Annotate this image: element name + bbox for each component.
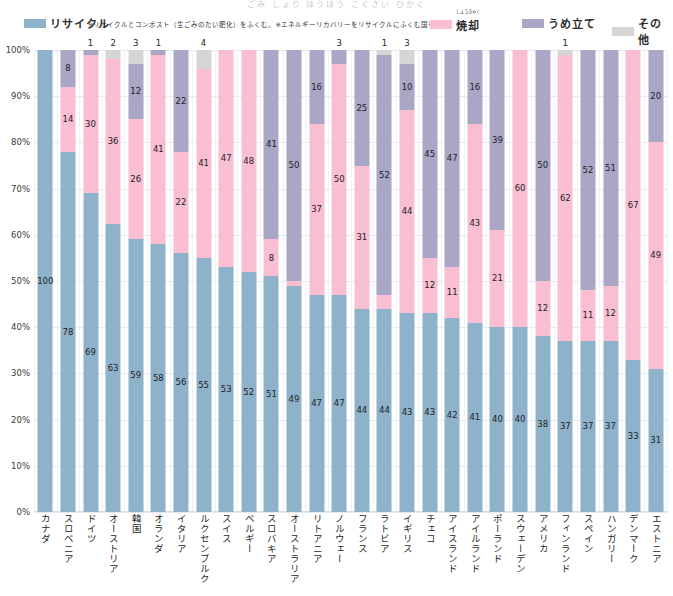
bar-segment[interactable]: 43 [422, 313, 437, 512]
bar-column[interactable]: 443521 [373, 50, 396, 512]
bar-column[interactable]: 414316 [464, 50, 487, 512]
stacked-bar[interactable]: 55414 [196, 50, 211, 512]
bar-segment[interactable]: 39 [490, 50, 505, 230]
bar-segment[interactable]: 36 [106, 59, 121, 224]
bar-segment[interactable]: 8 [264, 239, 279, 276]
bar-segment[interactable]: 58 [151, 244, 166, 512]
bar-segment[interactable]: 41 [151, 55, 166, 244]
stacked-bar[interactable]: 431245 [422, 50, 437, 512]
bar-segment[interactable]: 100 [38, 50, 53, 512]
bar-segment[interactable]: 45 [422, 50, 437, 258]
stacked-bar[interactable]: 314920 [648, 50, 663, 512]
bar-segment[interactable]: 41 [467, 323, 482, 512]
bar-segment[interactable]: 47 [332, 295, 347, 512]
bar-segment[interactable]: 59 [128, 239, 143, 512]
bar-column[interactable]: 5248 [237, 50, 260, 512]
bar-segment[interactable]: 47 [309, 295, 324, 512]
bar-segment[interactable]: 31 [354, 166, 369, 309]
bar-segment[interactable]: 3 [332, 50, 347, 64]
stacked-bar[interactable]: 5926123 [128, 50, 143, 512]
bar-column[interactable]: 421147 [441, 50, 464, 512]
stacked-bar[interactable]: 371251 [603, 50, 618, 512]
bar-segment[interactable]: 12 [535, 281, 550, 336]
stacked-bar[interactable]: 69301 [83, 50, 98, 512]
bar-segment[interactable]: 51 [264, 276, 279, 512]
bar-segment[interactable]: 50 [332, 64, 347, 295]
stacked-bar[interactable]: 49150 [287, 50, 302, 512]
bar-column[interactable]: 562222 [170, 50, 193, 512]
bar-segment[interactable]: 1 [287, 281, 302, 286]
bar-segment[interactable]: 16 [309, 50, 324, 124]
bar-segment[interactable]: 20 [648, 50, 663, 142]
bar-column[interactable]: 371152 [577, 50, 600, 512]
bar-segment[interactable]: 26 [128, 119, 143, 239]
bar-segment[interactable]: 44 [377, 309, 392, 512]
bar-segment[interactable]: 42 [445, 318, 460, 512]
bar-column[interactable]: 58411 [147, 50, 170, 512]
bar-column[interactable]: 69301 [79, 50, 102, 512]
bar-column[interactable]: 314920 [644, 50, 667, 512]
bar-segment[interactable]: 40 [513, 327, 528, 512]
stacked-bar[interactable]: 78148 [60, 50, 75, 512]
stacked-bar[interactable]: 47503 [332, 50, 347, 512]
bar-segment[interactable]: 4 [196, 50, 211, 68]
stacked-bar[interactable]: 371152 [580, 50, 595, 512]
bar-segment[interactable]: 55 [196, 258, 211, 512]
stacked-bar[interactable]: 37621 [558, 50, 573, 512]
bar-column[interactable]: 4344103 [396, 50, 419, 512]
bar-segment[interactable]: 52 [377, 55, 392, 295]
bar-segment[interactable]: 1 [151, 50, 166, 55]
bar-segment[interactable]: 49 [648, 142, 663, 368]
stacked-bar[interactable]: 100 [38, 50, 53, 512]
bar-column[interactable]: 47503 [328, 50, 351, 512]
bar-segment[interactable]: 37 [603, 341, 618, 512]
bar-segment[interactable]: 37 [558, 341, 573, 512]
bar-segment[interactable]: 67 [626, 50, 641, 360]
bar-segment[interactable]: 37 [309, 124, 324, 295]
stacked-bar[interactable]: 562222 [173, 50, 188, 512]
bar-segment[interactable]: 62 [558, 55, 573, 341]
bar-segment[interactable]: 63 [106, 224, 121, 512]
bar-segment[interactable]: 2 [106, 50, 121, 59]
bar-segment[interactable]: 60 [513, 50, 528, 327]
bar-segment[interactable]: 51 [603, 50, 618, 286]
bar-segment[interactable]: 56 [173, 253, 188, 512]
stacked-bar[interactable]: 421147 [445, 50, 460, 512]
bar-column[interactable]: 431245 [418, 50, 441, 512]
bar-segment[interactable]: 43 [400, 313, 415, 512]
bar-column[interactable]: 37621 [554, 50, 577, 512]
bar-segment[interactable]: 49 [287, 286, 302, 512]
bar-segment[interactable]: 48 [241, 50, 256, 272]
stacked-bar[interactable]: 381250 [535, 50, 550, 512]
bar-segment[interactable]: 21 [490, 230, 505, 327]
bar-column[interactable]: 402139 [486, 50, 509, 512]
bar-segment[interactable]: 40 [490, 327, 505, 512]
bar-segment[interactable]: 10 [400, 64, 415, 110]
bar-column[interactable]: 3367 [622, 50, 645, 512]
bar-segment[interactable]: 1 [377, 50, 392, 55]
bar-column[interactable]: 55414 [192, 50, 215, 512]
bar-column[interactable]: 51841 [260, 50, 283, 512]
bar-segment[interactable]: 14 [60, 87, 75, 152]
bar-segment[interactable]: 50 [287, 50, 302, 281]
stacked-bar[interactable]: 5248 [241, 50, 256, 512]
bar-segment[interactable]: 11 [445, 267, 460, 318]
stacked-bar[interactable]: 402139 [490, 50, 505, 512]
bar-column[interactable]: 5347 [215, 50, 238, 512]
bar-segment[interactable]: 38 [535, 336, 550, 512]
bar-segment[interactable]: 1 [83, 50, 98, 55]
stacked-bar[interactable]: 5347 [219, 50, 234, 512]
bar-segment[interactable]: 44 [400, 110, 415, 313]
bar-column[interactable]: 443125 [351, 50, 374, 512]
bar-segment[interactable]: 3 [128, 50, 143, 64]
stacked-bar[interactable]: 443521 [377, 50, 392, 512]
bar-segment[interactable]: 41 [264, 50, 279, 239]
stacked-bar[interactable]: 3367 [626, 50, 641, 512]
bar-segment[interactable]: 16 [467, 50, 482, 124]
bar-segment[interactable]: 22 [173, 152, 188, 254]
stacked-bar[interactable]: 414316 [467, 50, 482, 512]
bar-column[interactable]: 49150 [283, 50, 306, 512]
bar-segment[interactable]: 47 [445, 50, 460, 267]
bar-segment[interactable]: 37 [580, 341, 595, 512]
bar-segment[interactable]: 12 [128, 64, 143, 119]
